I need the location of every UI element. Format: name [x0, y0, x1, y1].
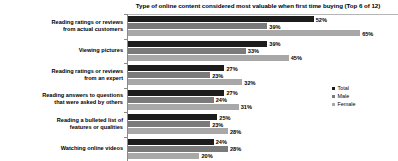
bar-value-label: 23% — [212, 122, 223, 128]
category-label-line: Watching online videos — [0, 145, 123, 152]
axis-tick — [124, 14, 127, 15]
bar-male — [128, 23, 267, 29]
category-label-line: from an expert — [0, 75, 123, 82]
category-label: Viewing pictures — [0, 47, 123, 54]
legend-item-male[interactable]: Male — [332, 92, 355, 100]
category-label-line: Reading answers to questions — [0, 92, 123, 99]
bar-female — [128, 128, 228, 134]
legend-label: Total — [338, 84, 349, 92]
bar-female — [128, 55, 289, 61]
category-label: Reading ratings or reviewsfrom actual cu… — [0, 19, 123, 33]
category-axis-labels: Reading ratings or reviewsfrom actual cu… — [0, 14, 126, 161]
bar-male — [128, 97, 214, 103]
axis-tick — [124, 137, 127, 138]
bar-value-label: 65% — [362, 31, 373, 37]
category-label-line: Reading ratings or reviews — [0, 19, 123, 26]
chart-title: Type of online content considered most v… — [118, 2, 398, 10]
category-label-line: Reading ratings or reviews — [0, 68, 123, 75]
bar-value-label: 32% — [244, 80, 255, 86]
category-label: Reading answers to questionsthat were as… — [0, 92, 123, 106]
bar-female — [128, 79, 242, 85]
bar-value-label: 24% — [216, 97, 227, 103]
bar-male — [128, 48, 246, 54]
bar-value-label: 45% — [291, 55, 302, 61]
category-label: Watching online videos — [0, 145, 123, 152]
bar-value-label: 20% — [201, 153, 212, 159]
legend-swatch-icon — [332, 103, 335, 106]
bar-value-label: 31% — [241, 104, 252, 110]
bar-value-label: 33% — [248, 48, 259, 54]
bar-male — [128, 146, 228, 152]
category-label: Reading a bulleted list offeatures or qu… — [0, 117, 123, 131]
bar-chart: Type of online content considered most v… — [0, 0, 398, 161]
plot-area: Reading ratings or reviewsfrom actual cu… — [0, 14, 398, 161]
bar-female — [128, 104, 239, 110]
bars-area: 52%39%65%39%33%45%27%23%32%27%24%31%25%2… — [128, 14, 398, 161]
legend-item-total[interactable]: Total — [332, 84, 355, 92]
bar-value-label: 23% — [212, 73, 223, 79]
bar-value-label: 28% — [230, 129, 241, 135]
chart-legend: TotalMaleFemale — [332, 84, 355, 108]
category-label-line: features or qualities — [0, 124, 123, 131]
bar-value-label: 39% — [269, 24, 280, 30]
legend-swatch-icon — [332, 95, 335, 98]
category-label-line: from actual customers — [0, 26, 123, 33]
bar-total — [128, 139, 214, 145]
bar-total — [128, 65, 224, 71]
legend-swatch-icon — [332, 87, 335, 90]
bar-total — [128, 41, 267, 47]
bar-value-label: 24% — [216, 139, 227, 145]
category-label-line: Viewing pictures — [0, 47, 123, 54]
bar-value-label: 27% — [226, 90, 237, 96]
axis-tick — [124, 112, 127, 113]
bar-female — [128, 153, 199, 159]
category-label-line: Reading a bulleted list of — [0, 117, 123, 124]
axis-tick — [124, 88, 127, 89]
bar-female — [128, 30, 360, 36]
axis-tick — [124, 63, 127, 64]
bar-total — [128, 114, 217, 120]
legend-label: Male — [338, 92, 350, 100]
bar-total — [128, 16, 314, 22]
legend-item-female[interactable]: Female — [332, 100, 355, 108]
bar-value-label: 27% — [226, 66, 237, 72]
bar-value-label: 25% — [219, 115, 230, 121]
bar-total — [128, 90, 224, 96]
bar-value-label: 28% — [230, 146, 241, 152]
bar-value-label: 52% — [316, 17, 327, 23]
axis-tick — [124, 39, 127, 40]
bar-value-label: 39% — [269, 41, 280, 47]
bar-male — [128, 72, 210, 78]
bar-male — [128, 121, 210, 127]
category-label: Reading ratings or reviewsfrom an expert — [0, 68, 123, 82]
legend-label: Female — [338, 100, 356, 108]
category-label-line: that were asked by others — [0, 99, 123, 106]
